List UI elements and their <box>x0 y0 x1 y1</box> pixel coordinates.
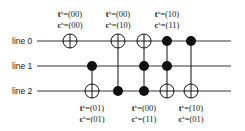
control-dot-icon <box>139 61 149 71</box>
gate-4-t-value: tk=(10) <box>145 8 189 19</box>
line-label-0: line 0 <box>12 36 32 46</box>
gate-4-c-value: ck=(11) <box>145 19 189 30</box>
line-label-1: line 1 <box>12 61 32 71</box>
line-label-2: line 2 <box>12 86 32 96</box>
gate-3-label: tk=(00)ck=(11) <box>122 102 166 124</box>
gate-3-c-value: ck=(11) <box>122 113 166 124</box>
gate-5-c-value: ck=(01) <box>169 113 213 124</box>
gate-5-t-value: tk=(10) <box>169 102 213 113</box>
gate-3-t-value: tk=(00) <box>122 102 166 113</box>
control-dot-icon <box>139 86 149 96</box>
gate-1-c-value: ck=(01) <box>70 113 114 124</box>
gate-1-label: tk=(01)ck=(01) <box>70 102 114 124</box>
gate-1-t-value: tk=(01) <box>70 102 114 113</box>
gate-2-label: tk=(00)ck=(10) <box>96 8 140 30</box>
gate-2-c-value: ck=(10) <box>96 19 140 30</box>
gate-4-label: tk=(10)ck=(11) <box>145 8 189 30</box>
gate-0-label: tk=(00)ck=(00) <box>48 8 92 30</box>
control-dot-icon <box>113 86 123 96</box>
gate-0-t-value: tk=(00) <box>48 8 92 19</box>
gate-0-c-value: ck=(00) <box>48 19 92 30</box>
gate-2-t-value: tk=(00) <box>96 8 140 19</box>
control-dot-icon <box>186 36 196 46</box>
control-dot-icon <box>87 61 97 71</box>
control-dot-icon <box>162 61 172 71</box>
gate-5-label: tk=(10)ck=(01) <box>169 102 213 124</box>
control-dot-icon <box>162 36 172 46</box>
circuit-diagram: line 0line 1line 2tk=(00)ck=(00)tk=(01)c… <box>0 0 245 131</box>
